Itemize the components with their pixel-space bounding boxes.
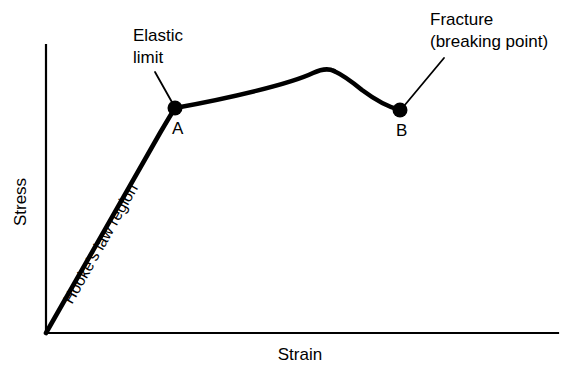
y-axis-title: Stress [11, 178, 30, 226]
stress-strain-curve-group [46, 69, 400, 333]
elastic-limit-leader-line [155, 72, 173, 104]
leader-lines-group [155, 58, 444, 106]
fracture-leader-line [404, 58, 444, 106]
point-a-label: A [172, 119, 184, 138]
figure-canvas: Elastic limit Fracture (breaking point) … [0, 0, 581, 370]
text-labels-group: Elastic limit Fracture (breaking point) … [11, 10, 548, 364]
elastic-limit-label-line1: Elastic [133, 26, 184, 45]
x-axis-title: Strain [278, 345, 322, 364]
necking-to-fracture-segment [334, 71, 400, 110]
plastic-deformation-segment [175, 69, 334, 108]
elastic-limit-label-line2: limit [133, 48, 163, 67]
hookes-law-region-label: Hooke's law region [60, 181, 141, 307]
point-b-label: B [396, 121, 407, 140]
point-a-marker [168, 101, 183, 116]
stress-strain-figure: Elastic limit Fracture (breaking point) … [0, 0, 581, 370]
fracture-label-line1: Fracture [430, 10, 493, 29]
fracture-label-line2: (breaking point) [430, 32, 548, 51]
